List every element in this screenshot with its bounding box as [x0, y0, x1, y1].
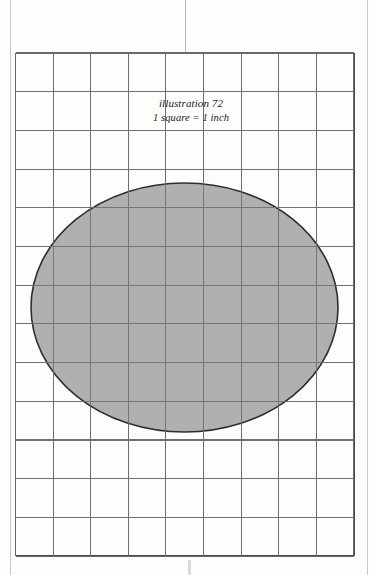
- caption-line-illustration-number: illustration 72: [131, 97, 251, 111]
- shaded-ellipse-shape: [31, 183, 338, 432]
- caption-line-scale: 1 square = 1 inch: [131, 111, 251, 125]
- grid-and-shape-canvas: [0, 0, 375, 575]
- shaded-ellipse: [31, 183, 338, 432]
- grid-figure: [0, 0, 375, 575]
- figure-caption: illustration 72 1 square = 1 inch: [131, 97, 251, 124]
- illustration-page: illustration 72 1 square = 1 inch: [0, 0, 375, 575]
